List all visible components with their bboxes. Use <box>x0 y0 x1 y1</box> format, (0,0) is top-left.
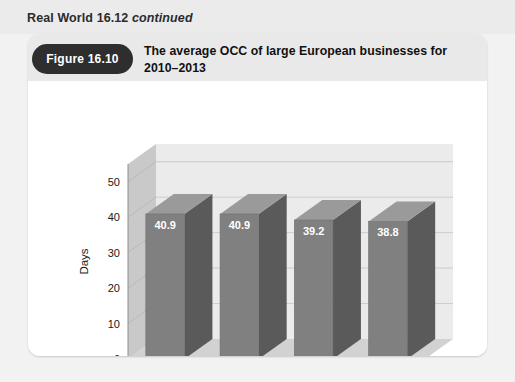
bar-side-face <box>184 194 212 356</box>
chart-container: 01020304050Days40.9201040.9201139.220123… <box>28 81 487 356</box>
y-axis-title: Days <box>78 248 90 274</box>
bar-front-face <box>294 220 333 356</box>
y-axis-tick-label: 0 <box>114 353 120 356</box>
figure-header-band: Figure 16.10 The average OCC of large Eu… <box>28 33 487 81</box>
bar-side-face <box>333 200 361 356</box>
real-world-heading: Real World 16.12 continued <box>27 11 193 25</box>
figure-title: The average OCC of large European busine… <box>144 43 474 76</box>
bar-value-label: 39.2 <box>303 225 324 237</box>
bar-front-face <box>220 214 259 356</box>
bar-value-label: 40.9 <box>229 219 250 231</box>
real-world-strip: Real World 16.12 continued <box>0 0 515 34</box>
y-axis-tick-label: 30 <box>108 247 120 259</box>
bar-side-face <box>259 194 287 356</box>
real-world-heading-bold: Real World 16.12 <box>27 11 128 25</box>
real-world-heading-continued: continued <box>132 11 193 25</box>
y-axis-tick-label: 10 <box>108 318 120 330</box>
bar-front-face <box>146 214 185 356</box>
bar-front-face <box>369 221 408 356</box>
bar-value-label: 40.9 <box>154 219 175 231</box>
bar-group: 38.8 <box>369 201 436 356</box>
figure-number-badge: Figure 16.10 <box>32 44 133 74</box>
page-root: Real World 16.12 continued Figure 16.10 … <box>0 0 515 382</box>
bar-chart-3d: 01020304050Days40.9201040.9201139.220123… <box>28 81 487 356</box>
bar-group: 39.2 <box>294 200 361 356</box>
bar-group: 40.9 <box>220 194 287 356</box>
y-axis-tick-label: 50 <box>108 176 120 188</box>
y-axis-tick-label: 20 <box>108 282 120 294</box>
bar-side-face <box>407 201 435 356</box>
y-axis-tick-label: 40 <box>108 211 120 223</box>
figure-card: Figure 16.10 The average OCC of large Eu… <box>28 33 487 356</box>
bar-value-label: 38.8 <box>377 226 398 238</box>
bar-group: 40.9 <box>146 194 213 356</box>
